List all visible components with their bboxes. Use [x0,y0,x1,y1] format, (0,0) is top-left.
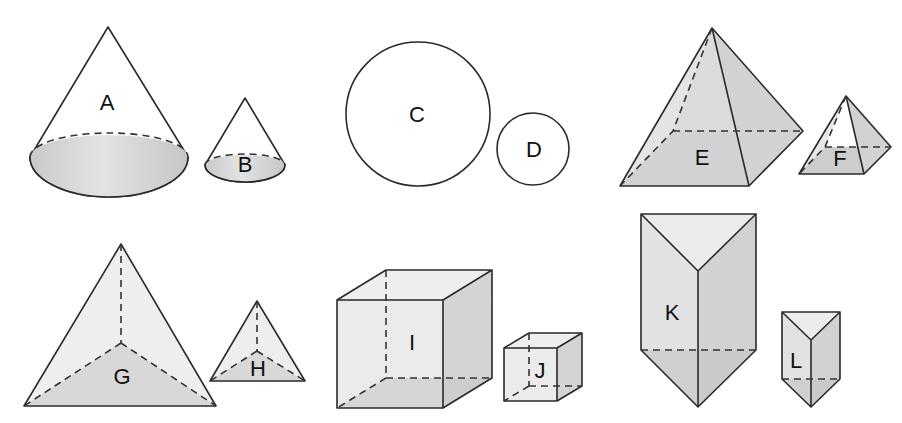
sphere-d: D [497,113,569,185]
shape-label-l: L [790,348,802,373]
triangular-pyramid-g: G [24,244,216,406]
triangular-prism-k: K [641,214,756,407]
shape-label-k: K [665,300,680,325]
shape-label-f: F [833,146,846,171]
shape-label-b: B [238,152,253,177]
shape-label-e: E [695,145,710,170]
square-pyramid-e: E [620,28,803,186]
shape-label-d: D [526,137,542,162]
shape-label-i: I [409,330,415,355]
triangular-prism-l: L [782,312,840,407]
similar-solids-diagram: A B C D E F [0,0,902,423]
shape-label-c: C [409,102,425,127]
cube-i: I [337,270,492,408]
cube-j: J [504,333,582,401]
cone-a: A [30,27,188,197]
shape-label-h: H [250,356,266,381]
cone-b: B [205,98,285,182]
sphere-c: C [346,42,490,186]
shape-label-g: G [113,364,130,389]
shape-label-a: A [100,90,115,115]
shape-label-j: J [535,358,546,383]
triangular-pyramid-h: H [210,301,305,381]
square-pyramid-f: F [799,96,891,174]
